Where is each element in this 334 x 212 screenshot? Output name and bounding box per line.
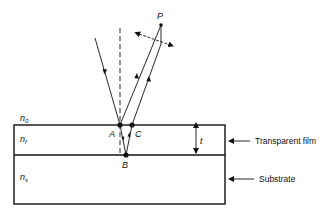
label-b: B [122,160,128,170]
ray-direction-arrow-icon [103,69,108,74]
callout-substrate: Substrate [229,174,296,184]
label-substrate-index: ns [20,172,28,183]
point-p-marker [159,23,163,27]
label-p: P [157,11,163,21]
label-a: A [108,129,115,139]
reflected-ray-a [120,25,161,125]
point-a-marker [117,122,122,127]
refracted-ray-in-film [120,125,132,155]
film-thickness-indicator: t [196,127,203,153]
label-ambient-index: n0 [20,113,29,124]
label-thickness: t [200,136,203,146]
callout-film-label: Transparent film [255,136,316,146]
ray-direction-arrow-icon [134,73,139,79]
incident-ray [95,38,120,125]
thin-film-interference-diagram: P A C B n0 nf ns t Transparent film Subs… [0,0,334,212]
layer-box-outline [14,125,225,204]
label-c: C [135,129,142,139]
layer-stack [14,125,225,204]
callout-substrate-label: Substrate [259,174,296,184]
ray-direction-arrow-icon [146,76,151,82]
label-film-index: nf [20,134,28,145]
callout-transparent-film: Transparent film [229,136,316,146]
point-b-marker [123,152,128,157]
wavefront-double-arrow [139,34,173,46]
point-c-marker [129,122,134,127]
